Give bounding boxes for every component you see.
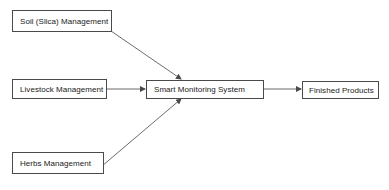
arrow-herbs-to-smart [102, 99, 181, 166]
node-label: Finished Products [309, 86, 374, 95]
node-finished-products: Finished Products [302, 81, 379, 99]
node-label: Herbs Management [20, 159, 91, 168]
node-smart-monitoring-system: Smart Monitoring System [146, 80, 264, 99]
node-herbs-management: Herbs Management [12, 152, 104, 174]
node-soil-management: Soil (Slica) Management [12, 10, 112, 32]
node-label: Soil (Slica) Management [20, 17, 108, 26]
node-livestock-management: Livestock Management [12, 79, 107, 99]
node-label: Livestock Management [20, 85, 103, 94]
arrow-soil-to-smart [111, 31, 181, 79]
flowchart-canvas: Soil (Slica) Management Livestock Manage… [0, 0, 389, 190]
node-label: Smart Monitoring System [154, 85, 245, 94]
